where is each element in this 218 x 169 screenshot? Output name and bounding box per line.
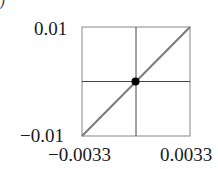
x-tick-left: −0.0033 [48,145,111,164]
equilibrium-point [132,78,140,86]
x-tick-right: 0.0033 [160,145,212,164]
y-tick-top: 0.01 [34,19,67,38]
y-tick-bottom: −0.01 [20,126,64,145]
